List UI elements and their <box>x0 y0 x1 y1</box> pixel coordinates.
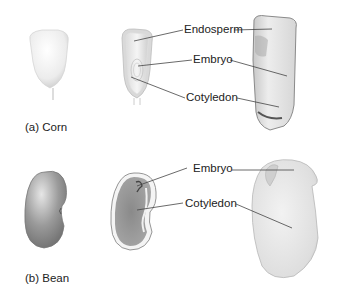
corn-whole-kernel <box>30 30 69 100</box>
bean-large-cotyledon <box>252 160 318 278</box>
label-corn-embryo: Embryo <box>193 54 233 66</box>
label-bean-cotyledon: Cotyledon <box>185 198 237 210</box>
caption-bean: (b) Bean <box>25 273 69 285</box>
bean-section-seed <box>111 173 156 250</box>
caption-corn: (a) Corn <box>25 122 67 134</box>
label-corn-cotyledon: Cotyledon <box>186 92 238 104</box>
seed-structure-figure: Endosperm Embryo Cotyledon (a) Corn Embr… <box>0 0 338 293</box>
bean-whole-seed <box>25 171 67 248</box>
label-corn-endosperm: Endosperm <box>184 24 243 36</box>
label-bean-embryo: Embryo <box>193 163 233 175</box>
illustrations <box>0 0 338 293</box>
